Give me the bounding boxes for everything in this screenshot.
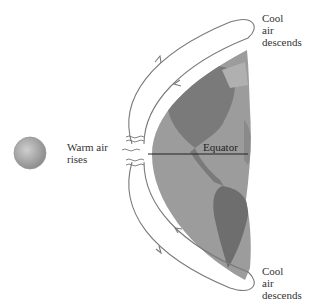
warm-air-waves-icon — [122, 136, 144, 166]
label-line: descends — [262, 289, 302, 301]
label-line: air — [262, 277, 302, 289]
warm-air-rises-label: Warm air rises — [67, 141, 108, 165]
label-line: rises — [67, 153, 108, 165]
label-line: Cool — [262, 265, 302, 277]
label-line: Warm air — [67, 141, 108, 153]
equator-label: Equator — [203, 141, 238, 153]
cool-air-descends-label-bottom: Cool air descends — [262, 265, 302, 301]
label-line: air — [262, 24, 302, 36]
cool-air-descends-label-top: Cool air descends — [262, 12, 302, 48]
down-arrow-icon — [174, 80, 181, 86]
label-line: Cool — [262, 12, 302, 24]
label-line: descends — [262, 36, 302, 48]
sun-icon — [14, 137, 46, 169]
up-arrow-icon — [155, 56, 161, 63]
